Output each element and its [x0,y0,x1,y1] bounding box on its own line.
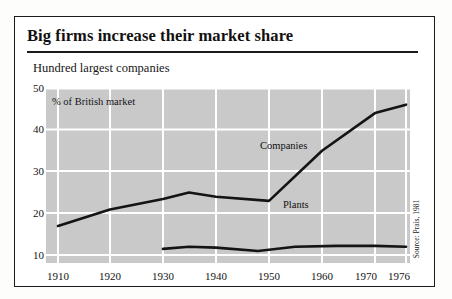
axis-note-percent-british-market: % of British market [52,96,135,107]
x-tick-1960: 1960 [301,270,343,282]
x-tick-1920: 1920 [89,270,131,282]
source-credit-text: Source: Prais, 1981 [412,200,421,259]
page-title: Big firms increase their market share [27,26,417,46]
source-credit: Source: Prais, 1981 [409,186,423,272]
y-tick-20: 20 [18,207,44,219]
x-tick-1910: 1910 [37,270,79,282]
y-tick-50: 50 [18,82,44,94]
x-tick-1940: 1940 [195,270,237,282]
x-tick-1930: 1930 [142,270,184,282]
y-tick-10: 10 [18,249,44,261]
chart-subtitle: Hundred largest companies [33,61,170,76]
y-tick-40: 40 [18,123,44,135]
gridlines [46,88,410,263]
figure-container: Big firms increase their market share Hu… [0,0,452,299]
title-divider [27,51,418,53]
series-label-plants: Plants [283,199,309,210]
line-chart-svg [46,88,410,263]
series-label-companies: Companies [260,140,307,151]
chart-plot-area [46,88,410,263]
y-tick-30: 30 [18,165,44,177]
x-tick-1950: 1950 [248,270,290,282]
series-line-plants [163,246,406,251]
